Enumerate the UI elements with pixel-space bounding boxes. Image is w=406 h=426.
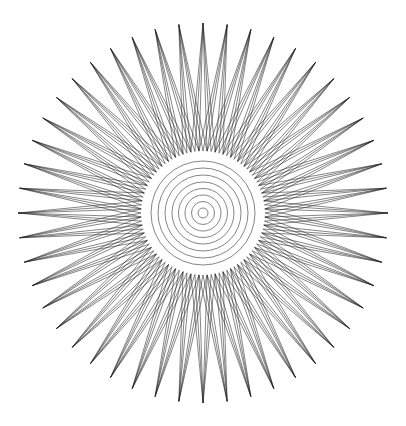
starburst-figure xyxy=(0,0,406,426)
background xyxy=(0,0,406,426)
starburst-svg xyxy=(0,0,406,426)
